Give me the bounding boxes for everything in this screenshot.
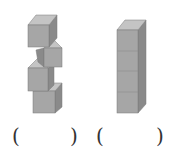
answer-blank-2-close: ) (156, 126, 164, 146)
answer-blank-2-open: ( (96, 126, 104, 146)
cubes-diagram (0, 0, 173, 158)
answer-blank-1-open: ( (12, 126, 20, 146)
stacked-cubes-loose (28, 15, 62, 113)
stacked-cubes-aligned (117, 20, 146, 113)
answer-blank-1-close: ) (70, 126, 78, 146)
cube (28, 15, 57, 47)
